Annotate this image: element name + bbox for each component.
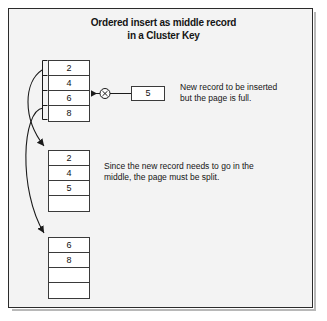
- caption-split-line-1: Since the new record needs to go in the: [104, 161, 304, 172]
- caption-split: Since the new record needs to go in the …: [104, 161, 304, 183]
- record-block-split-first: 2 4 5: [48, 150, 90, 212]
- caption-insert-line-1: New record to be inserted: [180, 82, 310, 93]
- record-cell: 2: [49, 151, 89, 166]
- record-cell: 6: [49, 238, 89, 253]
- record-block-split-second: 6 8: [48, 237, 90, 299]
- diagram-figure: Ordered insert as middle record in a Clu…: [0, 0, 327, 321]
- figure-shadow-right: [314, 12, 316, 310]
- record-cell-empty: [49, 268, 89, 283]
- caption-insert-line-2: but the page is full.: [180, 93, 310, 104]
- record-cell: 6: [49, 91, 89, 106]
- record-cell-empty: [49, 196, 89, 211]
- new-record-box: 5: [131, 86, 165, 101]
- caption-split-line-2: middle, the page must be split.: [104, 172, 304, 183]
- record-block-original: 2 4 6 8: [48, 60, 90, 122]
- figure-title-line-2: in a Cluster Key: [0, 29, 327, 42]
- figure-title: Ordered insert as middle record in a Clu…: [0, 16, 327, 42]
- figure-shadow-bottom: [12, 309, 316, 311]
- record-cell-empty: [49, 283, 89, 298]
- record-cell: 8: [49, 253, 89, 268]
- record-cell: 8: [49, 106, 89, 121]
- caption-insert: New record to be inserted but the page i…: [180, 82, 310, 104]
- record-cell: 4: [49, 76, 89, 91]
- figure-title-line-1: Ordered insert as middle record: [0, 16, 327, 29]
- record-cell: 4: [49, 166, 89, 181]
- record-cell: 2: [49, 61, 89, 76]
- record-cell: 5: [49, 181, 89, 196]
